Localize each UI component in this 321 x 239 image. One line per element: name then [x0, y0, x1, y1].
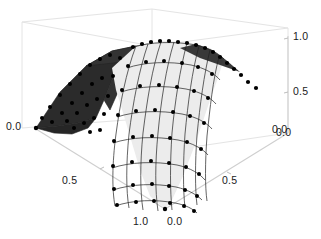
surface-plot-3d: 0.0 0.5 1.0 0.0 0.5 0.0 0.0 0.5 1.0	[0, 0, 321, 239]
tick-label-z-mid: 0.5	[293, 85, 308, 97]
tick-label-z-top: 1.0	[293, 30, 308, 42]
plot-canvas	[0, 0, 321, 239]
tick-label-corner-b: 0.0	[276, 126, 291, 138]
tick-label-bottom-left-max: 1.0	[133, 215, 148, 227]
tick-label-bottom-left-mid: 0.5	[62, 174, 77, 186]
tick-label-bottom-right-origin: 0.0	[167, 215, 182, 227]
tick-label-bottom-right-mid: 0.5	[222, 174, 237, 186]
tick-label-left-origin: 0.0	[6, 120, 21, 132]
